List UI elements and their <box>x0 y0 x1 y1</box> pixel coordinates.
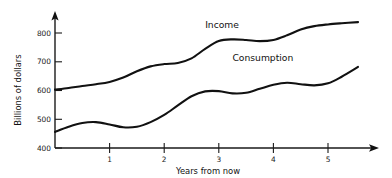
income-series-label: Income <box>205 19 239 30</box>
income-curve <box>55 22 358 90</box>
y-axis-title: Billions of dollars <box>13 54 23 125</box>
x-axis-title: Years from now <box>175 166 240 176</box>
y-axis-tick-labels: 400 500 600 700 800 <box>37 29 51 153</box>
x-tick-label-5: 5 <box>326 155 331 164</box>
y-tick-label-800: 800 <box>37 29 51 38</box>
consumption-series-label: Consumption <box>232 52 293 63</box>
line-chart: 400 500 600 700 800 1 2 3 4 5 Inco <box>0 0 392 178</box>
x-tick-label-2: 2 <box>162 155 167 164</box>
chart-container: 400 500 600 700 800 1 2 3 4 5 Inco <box>0 0 392 178</box>
x-axis-tick-labels: 1 2 3 4 5 <box>107 155 330 164</box>
x-tick-label-1: 1 <box>107 155 112 164</box>
axes-group <box>51 11 379 152</box>
y-tick-label-600: 600 <box>37 86 51 95</box>
consumption-curve <box>55 67 358 132</box>
y-tick-label-500: 500 <box>37 115 51 124</box>
y-tick-label-700: 700 <box>37 57 51 66</box>
series-group <box>55 22 358 132</box>
x-tick-label-4: 4 <box>271 155 276 164</box>
y-tick-label-400: 400 <box>37 144 51 153</box>
x-tick-label-3: 3 <box>216 155 221 164</box>
